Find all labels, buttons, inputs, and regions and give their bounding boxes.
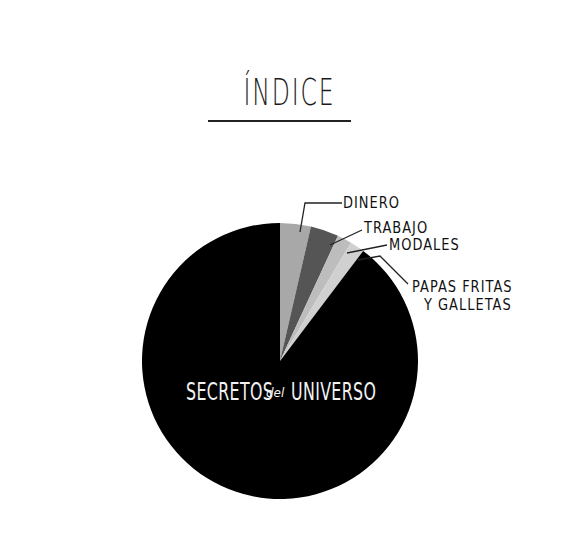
label-papas-line1: PAPAS FRITAS [412, 277, 513, 296]
label-universo: UNIVERSO [291, 376, 376, 406]
label-trabajo: TRABAJO [363, 218, 428, 237]
pie-slice-secretos-del-universo [142, 223, 418, 499]
label-papas-line2: Y GALLETAS [423, 295, 512, 314]
label-del: del [266, 386, 285, 400]
label-secretos: SECRETOS [186, 376, 273, 406]
pie-chart: DINERO TRABAJO MODALES PAPAS FRITAS Y GA… [0, 0, 579, 554]
label-dinero: DINERO [343, 193, 400, 212]
label-modales: MODALES [389, 235, 460, 254]
pie-slices [142, 223, 418, 499]
